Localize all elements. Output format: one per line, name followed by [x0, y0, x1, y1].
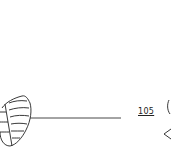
figure-drawing: [0, 0, 171, 150]
reference-numeral-105: 105: [138, 107, 154, 116]
leaf-icon: [0, 96, 31, 146]
partial-shape-icon: [164, 100, 171, 139]
